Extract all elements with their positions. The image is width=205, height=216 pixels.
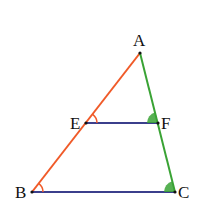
- label-a: A: [133, 31, 146, 50]
- label-e: E: [70, 114, 80, 133]
- angle-mark-e: [93, 114, 97, 123]
- point-e: [84, 121, 87, 124]
- label-f: F: [161, 114, 170, 133]
- point-f: [156, 121, 159, 124]
- point-c: [173, 190, 176, 193]
- angle-mark-b: [39, 183, 43, 192]
- point-a: [138, 51, 141, 54]
- label-c: C: [178, 183, 189, 202]
- point-b: [30, 190, 33, 193]
- label-b: B: [15, 183, 26, 202]
- triangle-diagram: A E F B C: [0, 0, 205, 216]
